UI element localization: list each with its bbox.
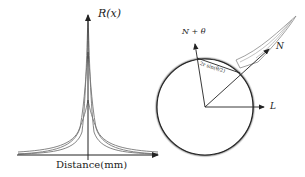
lorentzian-plot bbox=[17, 15, 158, 160]
label-l: L bbox=[270, 101, 276, 111]
figure-canvas bbox=[0, 0, 305, 177]
label-n: N bbox=[276, 41, 284, 51]
x-axis-label: Distance(mm) bbox=[56, 159, 127, 170]
y-axis-label: R(x) bbox=[98, 7, 121, 20]
sphere-diagram bbox=[154, 16, 296, 158]
label-n-plus-theta: N + θ bbox=[182, 27, 206, 36]
specular-lobe-outer bbox=[236, 16, 296, 68]
